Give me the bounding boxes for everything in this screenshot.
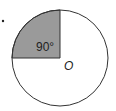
- center-label: O: [64, 59, 73, 73]
- angle-label: 90°: [36, 40, 54, 54]
- bullet-dot: [2, 20, 4, 22]
- circle-diagram: 90° O: [0, 0, 116, 111]
